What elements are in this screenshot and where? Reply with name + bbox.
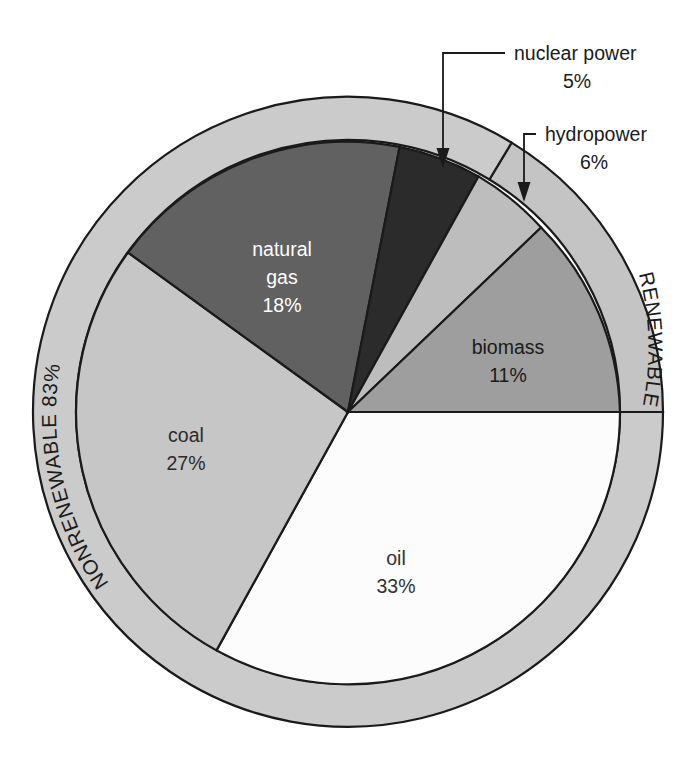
callout-hydropower-percent: 6%: [580, 151, 608, 173]
label-coal-percent: 27%: [166, 452, 205, 474]
label-natural-gas-line2: gas: [266, 266, 298, 288]
label-oil-name: oil: [386, 547, 406, 569]
label-coal-name: coal: [168, 424, 204, 446]
label-biomass-name: biomass: [472, 336, 545, 358]
label-biomass-percent: 11%: [489, 364, 527, 386]
pie-chart-figure: oil 33% coal 27% natural gas 18% biomass…: [0, 0, 699, 762]
callout-nuclear-label: nuclear power: [514, 42, 637, 64]
label-natural-gas-line1: natural: [252, 238, 312, 260]
energy-sources-pie-chart: oil 33% coal 27% natural gas 18% biomass…: [0, 0, 699, 762]
callout-nuclear-percent: 5%: [563, 70, 591, 92]
callout-hydropower-label: hydropower: [545, 123, 647, 145]
label-natural-gas-percent: 18%: [262, 294, 301, 316]
label-oil-percent: 33%: [376, 575, 415, 597]
